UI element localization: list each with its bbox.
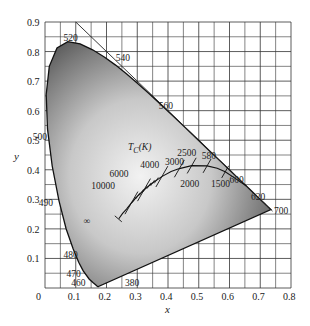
origin-label: 0 xyxy=(36,291,41,302)
temperature-label: 4000 xyxy=(140,160,159,170)
wavelength-label: 600 xyxy=(230,175,245,185)
y-axis-ticks: 0.10.20.30.40.50.60.70.80.9 xyxy=(27,17,40,264)
temperature-label: 6000 xyxy=(110,169,129,179)
cie-chromaticity-diagram: 380460470480490500520540560580600620700 … xyxy=(0,0,310,326)
wavelength-label: 470 xyxy=(67,269,82,279)
temperature-label: 1500 xyxy=(211,179,230,189)
x-tick-label: 0.7 xyxy=(252,291,265,302)
y-axis-label: y xyxy=(13,150,19,162)
temperature-label: 10000 xyxy=(91,181,115,191)
y-tick-label: 0.4 xyxy=(27,165,40,176)
x-axis-label: x xyxy=(164,303,170,315)
temperature-label: 3000 xyxy=(165,157,184,167)
wavelength-label: 700 xyxy=(274,206,289,216)
x-tick-label: 0.3 xyxy=(129,291,142,302)
x-tick-label: 0.6 xyxy=(222,291,235,302)
y-tick-label: 0.9 xyxy=(27,17,40,28)
temperature-label: 2000 xyxy=(180,179,199,189)
wavelength-label: 620 xyxy=(251,192,266,202)
y-tick-label: 0.1 xyxy=(27,253,40,264)
x-tick-label: 0.4 xyxy=(160,291,173,302)
wavelength-label: 540 xyxy=(116,53,131,63)
x-tick-label: 0.8 xyxy=(283,291,296,302)
wavelength-label: 580 xyxy=(202,151,217,161)
x-tick-label: 0.5 xyxy=(191,291,204,302)
y-tick-label: 0.3 xyxy=(27,194,40,205)
wavelength-label: 480 xyxy=(63,250,77,260)
y-tick-label: 0.8 xyxy=(27,47,40,58)
x-tick-label: 0.2 xyxy=(99,291,112,302)
temperature-label: ∞ xyxy=(83,216,90,226)
y-tick-label: 0.6 xyxy=(27,106,40,117)
y-tick-label: 0.2 xyxy=(27,224,40,235)
wavelength-label: 560 xyxy=(159,101,174,111)
y-tick-label: 0.7 xyxy=(27,76,40,87)
x-tick-label: 0.1 xyxy=(68,291,81,302)
wavelength-label: 490 xyxy=(39,198,54,208)
temperature-label: 2500 xyxy=(177,148,196,158)
wavelength-label: 380 xyxy=(125,278,140,288)
wavelength-label: 520 xyxy=(63,33,77,43)
y-tick-label: 0.5 xyxy=(27,135,40,146)
wavelength-label: 460 xyxy=(71,278,86,288)
x-axis-ticks: 0.10.20.30.40.50.60.70.8 xyxy=(68,291,296,302)
